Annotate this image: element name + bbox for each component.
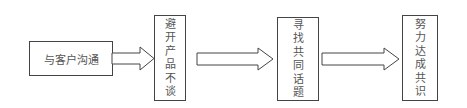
step-label-char: 努 (415, 18, 426, 32)
arrow-shape (322, 48, 399, 70)
step-label-char: 不 (165, 72, 176, 86)
step-label-char: 力 (415, 31, 426, 45)
step-label-char: 共 (293, 46, 304, 60)
step-label-char: 开 (165, 31, 176, 45)
arrow-step3-to-step4 (322, 47, 400, 71)
arrow-step2-to-step3 (197, 47, 274, 71)
step-label-char: 谈 (165, 85, 176, 99)
arrow-shape (197, 48, 273, 70)
step-label-char: 题 (293, 86, 304, 100)
step-label-char: 同 (293, 59, 304, 73)
arrow-shape (112, 47, 154, 70)
step-label-char: 成 (415, 58, 426, 72)
step-label-char: 话 (293, 73, 304, 87)
step-label: 避开产品不谈 (165, 18, 176, 99)
step-label: 寻找共同话题 (293, 19, 304, 100)
arrow-step1-to-step2 (112, 46, 155, 71)
step-label-char: 产 (165, 45, 176, 59)
step-communicate-with-client: 与客户沟通 (29, 41, 113, 76)
step-find-common-topic: 寻找共同话题 (277, 17, 319, 101)
step-label: 努力达成共识 (415, 18, 426, 99)
step-label-char: 共 (415, 72, 426, 86)
step-label-char: 品 (165, 58, 176, 72)
step-label-char: 避 (165, 18, 176, 32)
step-label-char: 寻 (293, 19, 304, 33)
step-label-char: 达 (415, 45, 426, 59)
step-reach-consensus: 努力达成共识 (402, 15, 438, 101)
step-avoid-product-talk: 避开产品不谈 (154, 15, 186, 101)
step-label-char: 识 (415, 85, 426, 99)
step-label: 与客户沟通 (44, 51, 99, 67)
step-label-char: 找 (293, 32, 304, 46)
